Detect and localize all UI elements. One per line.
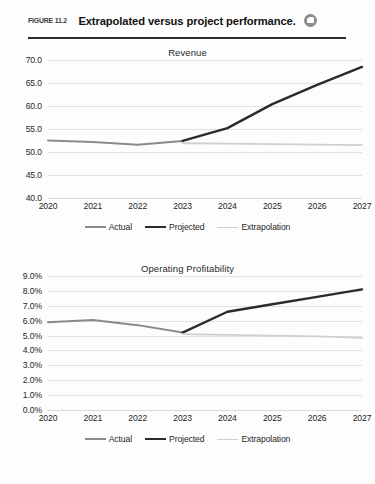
series-line-projected [183, 67, 362, 141]
x-axis-tick-label: 2023 [173, 413, 192, 423]
x-axis-tick-label: 2026 [308, 413, 327, 423]
legend-swatch-actual [85, 438, 106, 440]
y-axis-tick-label: 50.0 [26, 147, 42, 157]
legend-label-extrapolation: Extrapolation [241, 222, 290, 232]
x-axis-tick-label: 2021 [83, 201, 102, 211]
x-axis-tick-label: 2022 [128, 201, 147, 211]
y-axis-tick-label: 3.0% [23, 360, 42, 370]
series-line-extrapolation [183, 143, 362, 145]
legend-item-extrapolation[interactable]: Extrapolation [217, 434, 290, 444]
chart-revenue-plot-area: 40.045.050.055.060.065.070.0 [48, 60, 362, 198]
chart-operating-profitability-plot-area: 0.0%1.0%2.0%3.0%4.0%5.0%6.0%7.0%8.0%9.0% [48, 276, 362, 410]
chart-revenue-x-axis: 20202021202220232024202520262027 [48, 198, 362, 214]
series-line-actual [48, 141, 183, 145]
chart-operating-profitability-series [48, 276, 362, 410]
chart-operating-profitability-legend: ActualProjectedExtrapolation [0, 431, 375, 447]
legend-label-actual: Actual [109, 222, 132, 232]
x-axis-tick-label: 2020 [39, 413, 58, 423]
y-axis-tick-label: 2.0% [23, 375, 42, 385]
x-axis-tick-label: 2021 [83, 413, 102, 423]
y-axis-tick-label: 9.0% [23, 271, 42, 281]
chart-operating-profitability-x-axis: 20202021202220232024202520262027 [48, 410, 362, 426]
legend-label-extrapolation: Extrapolation [241, 434, 290, 444]
y-axis-tick-label: 1.0% [23, 390, 42, 400]
legend-swatch-projected [145, 226, 166, 228]
chart-operating-profitability: Operating Profitability 0.0%1.0%2.0%3.0%… [0, 262, 375, 447]
legend-swatch-extrapolation [217, 439, 238, 440]
y-axis-tick-label: 55.0 [26, 124, 42, 134]
y-axis-tick-label: 6.0% [23, 316, 42, 326]
y-axis-tick-label: 60.0 [26, 101, 42, 111]
figure-title: Extrapolated versus project performance. [78, 15, 295, 27]
chart-revenue-y-axis: 40.045.050.055.060.065.070.0 [2, 60, 44, 198]
x-axis-tick-label: 2023 [173, 201, 192, 211]
legend-label-projected: Projected [169, 222, 204, 232]
y-axis-tick-label: 70.0 [26, 55, 42, 65]
chart-operating-profitability-title: Operating Profitability [0, 262, 375, 276]
legend-label-projected: Projected [169, 434, 204, 444]
chart-revenue-plot: 40.045.050.055.060.065.070.0 [48, 60, 362, 198]
chart-operating-profitability-y-axis: 0.0%1.0%2.0%3.0%4.0%5.0%6.0%7.0%8.0%9.0% [2, 276, 44, 410]
y-axis-tick-label: 45.0 [26, 170, 42, 180]
figure-page: FIGURE 11.2 Extrapolated versus project … [0, 0, 375, 484]
legend-label-actual: Actual [109, 434, 132, 444]
chart-revenue-series [48, 60, 362, 198]
caption-row: FIGURE 11.2 Extrapolated versus project … [28, 14, 346, 27]
legend-item-actual[interactable]: Actual [85, 222, 132, 232]
series-line-actual [48, 320, 183, 333]
legend-swatch-actual [85, 226, 106, 228]
chart-operating-profitability-plot: 0.0%1.0%2.0%3.0%4.0%5.0%6.0%7.0%8.0%9.0% [48, 276, 362, 410]
x-axis-tick-label: 2020 [39, 201, 58, 211]
chart-revenue: Revenue 40.045.050.055.060.065.070.0 202… [0, 46, 375, 235]
x-axis-tick-label: 2024 [218, 201, 237, 211]
y-axis-tick-label: 8.0% [23, 286, 42, 296]
x-axis-tick-label: 2025 [263, 201, 282, 211]
legend-swatch-extrapolation [217, 227, 238, 228]
chart-revenue-legend: ActualProjectedExtrapolation [0, 219, 375, 235]
x-axis-tick-label: 2027 [353, 201, 372, 211]
y-axis-tick-label: 65.0 [26, 78, 42, 88]
y-axis-tick-label: 7.0% [23, 301, 42, 311]
y-axis-tick-label: 5.0% [23, 331, 42, 341]
x-axis-tick-label: 2025 [263, 413, 282, 423]
legend-item-projected[interactable]: Projected [145, 434, 204, 444]
legend-item-actual[interactable]: Actual [85, 434, 132, 444]
series-line-projected [183, 289, 362, 332]
figure-number-label: FIGURE 11.2 [28, 16, 67, 25]
x-axis-tick-label: 2022 [128, 413, 147, 423]
legend-swatch-projected [145, 438, 166, 440]
x-axis-tick-label: 2026 [308, 201, 327, 211]
chart-revenue-title: Revenue [0, 46, 375, 60]
media-camera-icon[interactable] [304, 14, 317, 27]
legend-item-projected[interactable]: Projected [145, 222, 204, 232]
legend-item-extrapolation[interactable]: Extrapolation [217, 222, 290, 232]
caption-divider [28, 37, 346, 39]
y-axis-tick-label: 4.0% [23, 345, 42, 355]
series-line-extrapolation [183, 334, 362, 338]
x-axis-tick-label: 2027 [353, 413, 372, 423]
x-axis-tick-label: 2024 [218, 413, 237, 423]
